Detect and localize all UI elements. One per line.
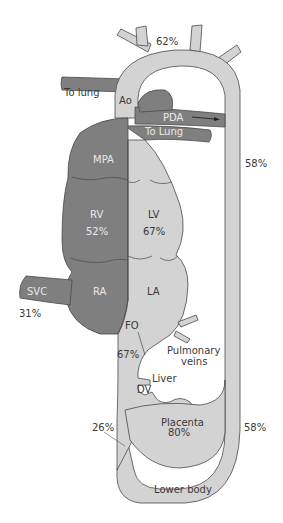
label-liver: Liver — [152, 373, 177, 384]
label-la: LA — [147, 286, 160, 297]
label-pda: PDA — [163, 112, 184, 123]
label-lv-sat: 67% — [143, 226, 165, 237]
label-lv: LV — [148, 209, 159, 220]
label-descending-aorta-sat: 58% — [245, 158, 267, 169]
fetal-circulation-diagram: 62% To lung Ao PDA To Lung 58% MPA RV 52… — [0, 0, 283, 523]
label-fo: FO — [125, 320, 139, 331]
label-to-lung-left: To lung — [63, 87, 100, 98]
label-placenta-sat: 80% — [168, 427, 190, 438]
subclavian-branch — [190, 25, 202, 52]
label-ivc-sat: 26% — [92, 422, 114, 433]
label-lower-body: Lower body — [154, 484, 212, 495]
label-aorta: Ao — [119, 95, 132, 106]
pulmonary-trunk-curl — [138, 90, 173, 112]
label-aortic-arch-sat: 62% — [156, 36, 178, 47]
label-mpa: MPA — [93, 154, 114, 165]
left-carotid-branch — [136, 26, 148, 46]
label-rv-sat: 52% — [86, 226, 108, 237]
label-pulmonary-veins-1: Pulmonary — [167, 345, 220, 356]
label-dv: DV — [137, 384, 152, 395]
label-svc: SVC — [27, 286, 47, 297]
label-rv: RV — [90, 209, 103, 220]
label-lower-aorta-sat: 58% — [244, 422, 266, 433]
label-fo-sat: 67% — [117, 349, 139, 360]
label-to-lung-right: To Lung — [144, 126, 183, 137]
label-ra: RA — [93, 286, 107, 297]
label-pulmonary-veins-2: veins — [181, 356, 207, 367]
label-svc-sat: 31% — [19, 308, 41, 319]
